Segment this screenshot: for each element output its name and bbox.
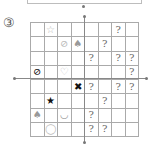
question-icon: ? bbox=[116, 82, 121, 92]
grid-cell bbox=[85, 94, 99, 108]
question-icon: ? bbox=[89, 82, 94, 92]
grid-cell bbox=[72, 94, 86, 108]
grid-cell bbox=[58, 23, 72, 37]
grid-cell bbox=[126, 109, 140, 123]
grid-cell: ? bbox=[112, 80, 126, 94]
grid-cell: ? bbox=[99, 37, 113, 51]
grid-cell bbox=[45, 52, 59, 66]
axis-arrow-dot bbox=[82, 5, 85, 8]
grid-cell bbox=[31, 23, 45, 37]
circle-outline-icon: ◯ bbox=[45, 124, 56, 134]
grid-cell: ◡ bbox=[58, 109, 72, 123]
question-icon: ? bbox=[129, 82, 134, 92]
grid-cell bbox=[72, 123, 86, 137]
axis-right-arrow-icon bbox=[145, 77, 148, 80]
grid-cell bbox=[31, 37, 45, 51]
heart-outline-icon: ♡ bbox=[60, 67, 69, 77]
grid-cell: ♠ bbox=[72, 37, 86, 51]
grid-cell bbox=[58, 94, 72, 108]
previous-grid-edge bbox=[27, 0, 142, 4]
grid-cell bbox=[58, 123, 72, 137]
grid-cell bbox=[45, 80, 59, 94]
grid-cell bbox=[99, 109, 113, 123]
grid-cell: ⊘ bbox=[58, 37, 72, 51]
grid-cell bbox=[31, 80, 45, 94]
grid-cell: ? bbox=[85, 52, 99, 66]
no-sign-light-icon: ⊘ bbox=[60, 39, 68, 49]
tulip-gray-icon: ♠ bbox=[33, 110, 42, 120]
grid-cell bbox=[31, 94, 45, 108]
grid-cell: ✖ bbox=[72, 80, 86, 94]
puzzle-number-label: ③ bbox=[3, 15, 15, 30]
grid-cell bbox=[126, 94, 140, 108]
grid-cell bbox=[45, 37, 59, 51]
question-icon: ? bbox=[116, 25, 121, 35]
smile-gray-icon: ◡ bbox=[60, 110, 69, 120]
grid-cell: ? bbox=[99, 123, 113, 137]
x-black-icon: ✖ bbox=[74, 82, 82, 92]
grid-cell: ? bbox=[85, 123, 99, 137]
question-icon: ? bbox=[129, 53, 134, 63]
grid-cell bbox=[72, 109, 86, 123]
grid-cell bbox=[126, 37, 140, 51]
grid-cell: ? bbox=[126, 80, 140, 94]
grid-cell bbox=[72, 52, 86, 66]
grid-cell bbox=[99, 52, 113, 66]
question-icon: ? bbox=[102, 124, 107, 134]
grid-cell bbox=[99, 80, 113, 94]
grid-cell: ♠ bbox=[31, 109, 45, 123]
grid-cell: ◯ bbox=[45, 123, 59, 137]
star-black-icon: ★ bbox=[46, 96, 55, 106]
question-icon: ? bbox=[89, 124, 94, 134]
no-sign-black-icon: ⊘ bbox=[33, 67, 41, 77]
grid-cell bbox=[85, 23, 99, 37]
grid-cell: ? bbox=[85, 109, 99, 123]
grid-cell bbox=[112, 109, 126, 123]
horizontal-axis bbox=[14, 78, 146, 79]
grid-cell bbox=[112, 37, 126, 51]
grid-cell: ? bbox=[99, 94, 113, 108]
grid-cell bbox=[126, 23, 140, 37]
star-outline-icon: ☆ bbox=[46, 25, 55, 35]
axis-bottom-arrow-icon bbox=[83, 141, 86, 144]
grid-cell bbox=[31, 123, 45, 137]
grid-cell: ? bbox=[112, 23, 126, 37]
question-icon: ? bbox=[129, 67, 134, 77]
question-icon: ? bbox=[116, 53, 121, 63]
grid-cell: ★ bbox=[45, 94, 59, 108]
grid-cell bbox=[99, 23, 113, 37]
axis-left-arrow-icon bbox=[13, 77, 16, 80]
question-icon: ? bbox=[89, 110, 94, 120]
question-icon: ? bbox=[89, 53, 94, 63]
grid-cell: ? bbox=[85, 80, 99, 94]
grid-cell: ? bbox=[126, 52, 140, 66]
vertical-axis bbox=[84, 16, 85, 143]
grid-cell bbox=[112, 94, 126, 108]
grid-cell bbox=[58, 80, 72, 94]
grid-cell bbox=[58, 52, 72, 66]
axis-top-arrow-icon bbox=[83, 15, 86, 18]
grid-cell: ☆ bbox=[45, 23, 59, 37]
tulip-gray-icon: ♠ bbox=[73, 39, 82, 49]
grid-cell bbox=[85, 37, 99, 51]
grid-cell bbox=[126, 123, 140, 137]
grid-cell: ? bbox=[112, 52, 126, 66]
question-icon: ? bbox=[102, 96, 107, 106]
grid-cell bbox=[31, 52, 45, 66]
grid-cell bbox=[72, 23, 86, 37]
grid-cell bbox=[112, 123, 126, 137]
grid-cell bbox=[45, 109, 59, 123]
question-icon: ? bbox=[102, 39, 107, 49]
